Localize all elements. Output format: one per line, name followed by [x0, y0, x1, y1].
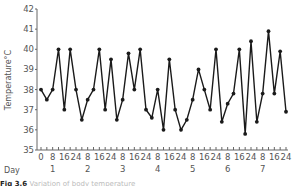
day-label: 2 — [85, 164, 90, 174]
x-axis: 0816248162481624816248162481624816241234… — [37, 147, 291, 174]
x-tick-label: 16 — [199, 152, 210, 162]
data-point — [138, 47, 142, 51]
temperature-line — [41, 31, 286, 134]
y-axis-title: Temperature°C — [4, 49, 13, 111]
x-tick-label: 8 — [225, 152, 230, 162]
data-point — [132, 88, 136, 92]
x-tick-label: 8 — [155, 152, 160, 162]
figure-caption-label: Fig 3.6 — [0, 180, 27, 186]
data-point — [202, 88, 206, 92]
temperature-series — [39, 29, 288, 136]
y-tick-label: 38 — [23, 85, 34, 95]
data-point — [62, 108, 66, 112]
data-point — [167, 57, 171, 61]
data-point — [162, 128, 166, 132]
day-label: 7 — [260, 164, 265, 174]
x-tick-label: 16 — [59, 152, 70, 162]
x-tick-label: 24 — [141, 152, 152, 162]
day-label: 1 — [50, 164, 55, 174]
data-point — [68, 47, 72, 51]
data-point — [214, 47, 218, 51]
y-tick-label: 36 — [23, 125, 34, 135]
data-point — [278, 49, 282, 53]
day-label: 4 — [155, 164, 160, 174]
data-point — [185, 118, 189, 122]
y-tick-label: 37 — [23, 105, 34, 115]
data-point — [208, 108, 212, 112]
data-point — [226, 102, 230, 106]
data-point — [57, 47, 61, 51]
day-label: 3 — [120, 164, 125, 174]
day-label: 5 — [190, 164, 195, 174]
data-point — [45, 98, 49, 102]
x-tick-label: 8 — [260, 152, 265, 162]
y-tick-label: 42 — [23, 4, 34, 14]
data-point — [39, 88, 43, 92]
data-point — [255, 120, 259, 124]
data-point — [97, 47, 101, 51]
data-point — [121, 98, 125, 102]
x-tick-label: 16 — [129, 152, 140, 162]
x-tick-label: 24 — [211, 152, 222, 162]
data-point — [272, 92, 276, 96]
data-point — [74, 88, 78, 92]
data-point — [243, 132, 247, 136]
x-tick-label: 8 — [190, 152, 195, 162]
data-point — [261, 92, 265, 96]
data-point — [237, 47, 241, 51]
x-tick-label: 24 — [246, 152, 257, 162]
data-point — [80, 118, 84, 122]
day-label: 6 — [225, 164, 230, 174]
x-tick-label: 24 — [281, 152, 292, 162]
data-point — [51, 88, 55, 92]
y-tick-label: 41 — [23, 24, 34, 34]
temperature-chart: 3536373839404142 08162481624816248162481… — [0, 0, 298, 180]
x-tick-label: 24 — [71, 152, 82, 162]
x-tick-label: 24 — [176, 152, 187, 162]
data-point — [103, 108, 107, 112]
figure-caption: Fig 3.6 Variation of body temperature — [0, 180, 135, 186]
data-point — [220, 120, 224, 124]
x-tick-label: 8 — [85, 152, 90, 162]
y-tick-label: 35 — [23, 145, 34, 155]
data-point — [232, 92, 236, 96]
y-tick-label: 39 — [23, 64, 34, 74]
data-point — [127, 51, 131, 55]
data-point — [267, 29, 271, 33]
data-point — [150, 116, 154, 120]
data-point — [86, 98, 90, 102]
data-point — [156, 88, 160, 92]
data-point — [179, 128, 183, 132]
data-point — [284, 110, 288, 114]
data-point — [92, 88, 96, 92]
x-tick-label: 8 — [50, 152, 55, 162]
data-point — [249, 39, 253, 43]
y-axis: 3536373839404142 — [23, 4, 37, 155]
y-tick-label: 40 — [23, 44, 34, 54]
data-point — [173, 108, 177, 112]
data-point — [191, 98, 195, 102]
data-point — [197, 68, 201, 72]
data-point — [144, 108, 148, 112]
x-tick-label: 16 — [269, 152, 280, 162]
x-axis-title: Day — [4, 166, 20, 175]
x-tick-label: 0 — [38, 152, 43, 162]
x-tick-label: 16 — [234, 152, 245, 162]
x-tick-label: 24 — [106, 152, 117, 162]
x-tick-label: 16 — [94, 152, 105, 162]
x-tick-label: 8 — [120, 152, 125, 162]
x-tick-label: 16 — [164, 152, 175, 162]
figure-caption-text: Variation of body temperature — [29, 180, 135, 186]
data-point — [115, 118, 119, 122]
data-point — [109, 57, 113, 61]
